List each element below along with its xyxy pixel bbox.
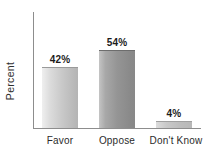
x-tick-label-favor: Favor bbox=[30, 135, 90, 146]
y-axis-title: Percent bbox=[4, 46, 18, 116]
bar-chart: Percent 42% 54% 4% Favor Oppose Don't Kn… bbox=[0, 0, 213, 157]
bar-dont-know[interactable] bbox=[156, 121, 192, 128]
bar-oppose[interactable] bbox=[99, 50, 135, 128]
plot-area: 42% 54% 4% bbox=[34, 12, 201, 128]
bar-value-oppose: 54% bbox=[90, 37, 144, 48]
x-tick-label-oppose: Oppose bbox=[86, 135, 148, 146]
x-tick-label-dont-know: Don't Know bbox=[141, 135, 211, 146]
x-axis-line bbox=[33, 128, 201, 129]
bar-value-favor: 42% bbox=[33, 54, 87, 65]
bar-value-dont-know: 4% bbox=[147, 108, 201, 119]
bar-favor[interactable] bbox=[42, 67, 78, 128]
